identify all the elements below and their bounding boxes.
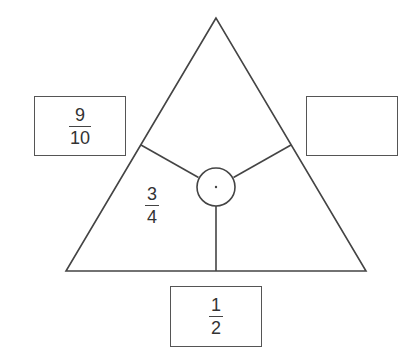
- bottom-box-fraction: 1 2: [209, 296, 223, 337]
- center-dot: [215, 186, 217, 188]
- fraction-numerator: 9: [74, 106, 86, 125]
- fraction-numerator: 1: [210, 296, 222, 315]
- fraction-denominator: 4: [146, 208, 158, 226]
- left-box-fraction: 9 10: [69, 106, 91, 147]
- left-answer-box: 9 10: [34, 96, 126, 156]
- right-answer-box-empty[interactable]: [306, 96, 398, 156]
- inner-left-fraction: 3 4: [145, 185, 159, 226]
- bottom-answer-box: 1 2: [170, 286, 262, 347]
- fraction-bar: [209, 316, 223, 317]
- fraction-denominator: 10: [69, 129, 91, 147]
- fraction-denominator: 2: [210, 319, 222, 337]
- fraction-bar: [145, 205, 159, 206]
- right-spoke: [234, 145, 292, 178]
- fraction-numerator: 3: [146, 185, 158, 204]
- left-spoke: [141, 145, 199, 178]
- fraction-bar: [69, 126, 91, 127]
